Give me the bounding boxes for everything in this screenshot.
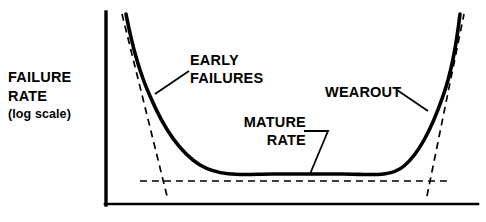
wearout-asymptote-dashed-line	[427, 14, 464, 196]
failure-rate-curve	[126, 14, 460, 175]
plot-area	[0, 0, 486, 222]
early-failures-asymptote-dashed-line	[122, 14, 167, 196]
bathtub-curve-figure: FAILURE RATE (log scale) EARLY FAILURES …	[0, 0, 486, 222]
leader-line-mature-rate	[304, 131, 328, 174]
leader-line-early-failures	[155, 71, 189, 94]
leader-line-wearout	[397, 90, 428, 111]
